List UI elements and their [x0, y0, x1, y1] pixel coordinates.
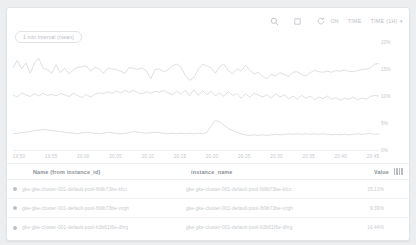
expand-icon[interactable] [291, 14, 305, 28]
x-axis-tick-label: 20:05 [109, 154, 122, 159]
cell-name: gke-gke-cluster-001-default-pool-fb9b73b… [13, 187, 186, 192]
y-axis-tick-label: 20% [381, 40, 391, 45]
refresh-icon [314, 14, 328, 28]
x-axis-tick-label: 20:20 [206, 154, 219, 159]
cell-name: gke-gke-cluster-001-default-pool-fb9b73b… [13, 206, 186, 211]
cell-value: 15.13% [354, 187, 384, 192]
series-color-dot-icon[interactable] [13, 187, 17, 191]
chart-x-axis: 19:5019:5520:0020:0520:1020:1520:2020:25… [13, 150, 379, 162]
column-header-instance-name[interactable]: instance_name [191, 169, 359, 175]
chart-series-line [13, 120, 379, 135]
table-header-row: Name (from instance_id) instance_name Va… [7, 163, 410, 180]
x-axis-tick-label: 20:45 [367, 154, 380, 159]
auto-refresh-label: ON [330, 18, 338, 24]
cell-instance-name: gke-gke-cluster-001-default-pool-fb9b73b… [186, 206, 354, 211]
chevron-down-icon: ▾ [400, 18, 403, 24]
screenshot-root: ON TIME TIME (1H)▾ 1 min interval (mean)… [0, 0, 416, 245]
chart-plot-area[interactable] [13, 42, 379, 150]
row-name-text: gke-gke-cluster-001-default-pool-fb9b73b… [22, 187, 127, 192]
x-axis-tick-label: 20:35 [302, 154, 315, 159]
chart-toolbar: ON TIME TIME (1H)▾ [268, 13, 403, 29]
column-header-name[interactable]: Name (from instance_id) [13, 169, 191, 175]
time-range-selector[interactable]: TIME (1H)▾ [371, 18, 403, 24]
time-series-chart[interactable]: 20%15%10%5%0% 19:5019:5520:0020:0520:102… [11, 42, 407, 164]
y-axis-tick-label: 10% [381, 94, 391, 99]
x-axis-tick-label: 20:10 [141, 154, 154, 159]
y-axis-tick-label: 15% [381, 67, 391, 72]
chart-series-line [13, 90, 379, 101]
x-axis-tick-label: 19:50 [13, 154, 26, 159]
time-range-label: TIME (1H) [371, 18, 398, 24]
x-axis-tick-label: 20:25 [238, 154, 251, 159]
x-axis-tick-label: 20:40 [335, 154, 348, 159]
auto-refresh-toggle[interactable]: ON [314, 14, 339, 28]
chart-y-axis: 20%15%10%5%0% [379, 42, 405, 150]
cell-instance-name: gke-gke-cluster-001-default-pool-b3b61f6… [186, 225, 354, 230]
series-color-dot-icon[interactable] [13, 206, 17, 210]
chart-series-line [13, 58, 379, 80]
table-row[interactable]: gke-gke-cluster-001-default-pool-b3b61f6… [7, 218, 410, 237]
cell-value: 16.44% [354, 225, 384, 230]
y-axis-tick-label: 5% [381, 121, 388, 126]
columns-settings-icon[interactable] [389, 168, 403, 175]
table-row[interactable]: gke-gke-cluster-001-default-pool-fb9b73b… [7, 180, 410, 199]
column-header-value[interactable]: Value [359, 169, 389, 175]
x-axis-tick-label: 20:00 [77, 154, 90, 159]
chart-svg [13, 42, 379, 150]
series-legend-table: Name (from instance_id) instance_name Va… [7, 163, 410, 237]
cell-name: gke-gke-cluster-001-default-pool-b3b61f6… [13, 225, 186, 230]
row-name-text: gke-gke-cluster-001-default-pool-b3b61f6… [22, 225, 128, 230]
cell-instance-name: gke-gke-cluster-001-default-pool-fb9b73b… [186, 187, 354, 192]
y-axis-tick-label: 0% [381, 148, 388, 153]
x-axis-tick-label: 20:30 [270, 154, 283, 159]
cell-value: 9.39% [354, 206, 384, 211]
x-axis-tick-label: 20:15 [174, 154, 187, 159]
x-axis-tick-label: 19:55 [45, 154, 58, 159]
metrics-card: ON TIME TIME (1H)▾ 1 min interval (mean)… [6, 7, 410, 241]
row-name-text: gke-gke-cluster-001-default-pool-fb9b73b… [22, 206, 129, 211]
search-icon[interactable] [268, 14, 282, 28]
time-label[interactable]: TIME [348, 18, 362, 24]
table-body: gke-gke-cluster-001-default-pool-fb9b73b… [7, 180, 410, 237]
table-row[interactable]: gke-gke-cluster-001-default-pool-fb9b73b… [7, 199, 410, 218]
series-color-dot-icon[interactable] [13, 226, 17, 230]
